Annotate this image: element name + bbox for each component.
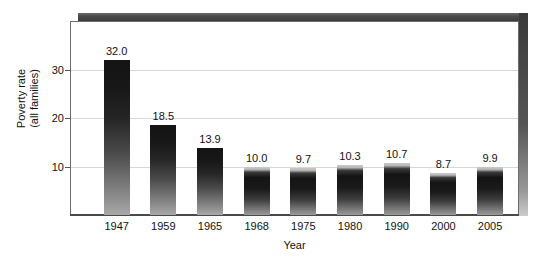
bar-group[interactable]: 10.0 xyxy=(244,153,270,216)
x-tick-label: 1959 xyxy=(140,220,187,232)
bar-value-label: 9.9 xyxy=(482,153,497,164)
bar-rect[interactable] xyxy=(430,173,456,215)
x-tick-label: 2005 xyxy=(467,220,514,232)
bar-value-label: 18.5 xyxy=(153,111,174,122)
bar-value-label: 32.0 xyxy=(106,46,127,57)
x-tick-label: 1990 xyxy=(373,220,420,232)
bar-group[interactable]: 13.9 xyxy=(197,134,223,215)
x-axis-tick-labels: 194719591965196819751980199020002005 xyxy=(70,220,519,234)
x-tick-label: 1975 xyxy=(280,220,327,232)
x-tick-label: 1947 xyxy=(93,220,140,232)
bar-value-label: 10.7 xyxy=(386,149,407,160)
bar-group[interactable]: 9.7 xyxy=(290,154,316,215)
frame-right-shadow-decoration xyxy=(519,13,528,216)
x-axis-title: Year xyxy=(70,239,519,251)
bar-rect[interactable] xyxy=(384,163,410,215)
y-axis-title-line2: (all families) xyxy=(27,34,40,164)
x-tick-label: 1968 xyxy=(233,220,280,232)
bar-rect[interactable] xyxy=(104,60,130,215)
poverty-rate-bar-chart: 102030 Poverty rate (all families) 32.01… xyxy=(0,0,555,262)
bar-rect[interactable] xyxy=(290,168,316,215)
bar-group[interactable]: 10.3 xyxy=(337,151,363,215)
bar-value-label: 10.0 xyxy=(246,153,267,164)
bar-value-label: 13.9 xyxy=(199,134,220,145)
x-tick-label: 1980 xyxy=(327,220,374,232)
bar-group[interactable]: 9.9 xyxy=(477,153,503,215)
bar-value-label: 8.7 xyxy=(436,159,451,170)
bar-rect[interactable] xyxy=(244,167,270,216)
y-axis-title: Poverty rate (all families) xyxy=(15,34,40,164)
bar-rect[interactable] xyxy=(337,165,363,215)
y-axis-title-line1: Poverty rate xyxy=(15,34,28,164)
bar-group[interactable]: 8.7 xyxy=(430,159,456,215)
bar-group[interactable]: 10.7 xyxy=(384,149,410,215)
bar-group[interactable]: 18.5 xyxy=(150,111,176,215)
bar-rect[interactable] xyxy=(477,167,503,215)
bar-rect[interactable] xyxy=(197,148,223,215)
bar-value-label: 9.7 xyxy=(296,154,311,165)
bar-rect[interactable] xyxy=(150,125,176,215)
bar-group[interactable]: 32.0 xyxy=(104,46,130,215)
bars-layer: 32.018.513.910.09.710.310.78.79.9 xyxy=(70,21,519,215)
bar-value-label: 10.3 xyxy=(339,151,360,162)
x-tick-label: 2000 xyxy=(420,220,467,232)
x-tick-label: 1965 xyxy=(187,220,234,232)
